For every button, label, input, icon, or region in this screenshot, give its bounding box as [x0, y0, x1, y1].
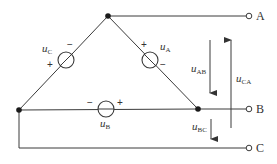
terminal-b-label: B: [256, 102, 264, 116]
source-uc-label: uC: [42, 42, 53, 56]
voltage-uab-label: uAB: [191, 62, 207, 76]
terminal-c: C: [246, 141, 264, 155]
source-ub-minus: −: [87, 97, 93, 108]
terminal-a-label: A: [256, 9, 265, 23]
source-uc: uC − +: [42, 39, 74, 70]
source-uc-plus: +: [47, 59, 53, 70]
source-ua-label: uA: [160, 40, 171, 54]
voltage-ubc: uBC: [192, 119, 211, 139]
terminal-c-label: C: [256, 141, 264, 155]
circuit-diagram: uC − + uA + − − + uB A B C uAB u: [0, 0, 277, 164]
source-ua: uA + −: [141, 39, 171, 70]
node-left: [16, 107, 22, 113]
voltage-uca: uCA: [231, 40, 251, 128]
terminal-a: A: [246, 9, 265, 23]
voltage-uab: uAB: [191, 40, 210, 93]
source-ub-plus: +: [117, 97, 123, 108]
voltage-uca-label: uCA: [236, 72, 251, 86]
node-top: [105, 13, 111, 19]
terminal-b: B: [246, 102, 264, 116]
source-uc-minus: −: [67, 39, 73, 50]
voltage-ubc-label: uBC: [192, 120, 207, 134]
source-ua-minus: −: [160, 59, 166, 70]
source-ua-plus: +: [141, 39, 147, 50]
wire-to-terminal-c: [19, 110, 246, 148]
node-right: [195, 106, 201, 112]
source-ub: − + uB: [87, 97, 123, 131]
source-ub-label: uB: [100, 117, 111, 131]
